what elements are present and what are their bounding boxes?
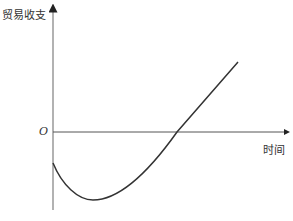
j-curve-chart — [0, 0, 293, 221]
j-curve-line — [53, 62, 238, 200]
